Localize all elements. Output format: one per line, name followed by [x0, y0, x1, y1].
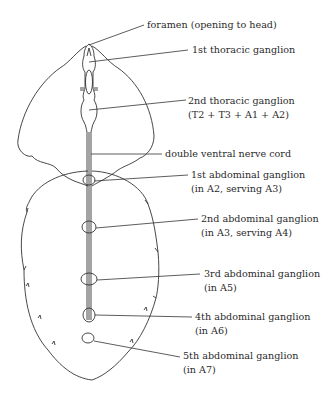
leader-abdominal-4	[95, 315, 192, 317]
leader-abdominal-5	[94, 341, 180, 357]
thorax-outline	[18, 46, 154, 186]
label-thoracic-1: 1st thoracic ganglion	[192, 44, 295, 55]
label-abdominal-2-sub: (in A3, serving A4)	[201, 227, 292, 238]
leader-foramen	[89, 25, 144, 45]
leader-abdominal-1	[94, 175, 188, 181]
double-nerve-cord	[87, 132, 91, 320]
leader-thoracic-2	[89, 100, 186, 110]
abdominal-ganglion-5-shape	[82, 333, 94, 343]
label-abdominal-4: 4th abdominal ganglion	[195, 311, 310, 322]
label-abdominal-1: 1st abdominal ganglion	[191, 169, 305, 180]
label-thoracic-2: 2nd thoracic ganglion	[188, 95, 295, 106]
label-abdominal-3: 3rd abdominal ganglion	[204, 268, 320, 279]
label-thoracic-2-sub: (T2 + T3 + A1 + A2)	[188, 109, 289, 120]
label-abdominal-4-sub: (in A6)	[195, 325, 228, 336]
label-abdominal-1-sub: (in A2, serving A3)	[191, 183, 282, 194]
leader-abdominal-3	[97, 274, 200, 280]
thoracic-ganglion-1-shape	[83, 56, 96, 100]
nerve-cord-diagram: foramen (opening to head) 1st thoracic g…	[0, 0, 331, 393]
thoracic-ganglion-2-shape	[81, 100, 97, 132]
abdomen-outline	[21, 171, 159, 380]
leader-abdominal-2	[96, 219, 198, 228]
label-abdominal-5: 5th abdominal ganglion	[183, 350, 298, 361]
label-foramen: foramen (opening to head)	[147, 19, 277, 30]
label-abdominal-3-sub: (in A5)	[204, 282, 237, 293]
label-abdominal-5-sub: (in A7)	[183, 364, 216, 375]
label-nerve-cord: double ventral nerve cord	[165, 148, 291, 159]
label-abdominal-2: 2nd abdominal ganglion	[201, 213, 319, 224]
